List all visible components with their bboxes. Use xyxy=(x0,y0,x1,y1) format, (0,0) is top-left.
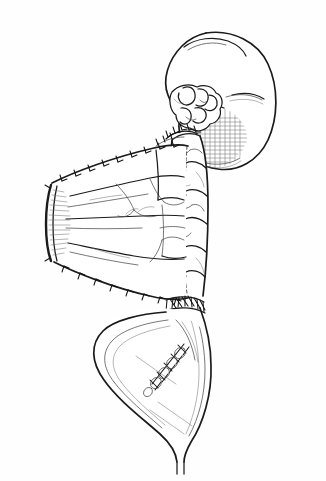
figure-caption xyxy=(8,468,306,480)
illustration-page: .ol { fill:none; stroke:#1b1b1b; stroke-… xyxy=(0,0,326,481)
illustration-artwork: .ol { fill:none; stroke:#1b1b1b; stroke-… xyxy=(0,0,326,481)
